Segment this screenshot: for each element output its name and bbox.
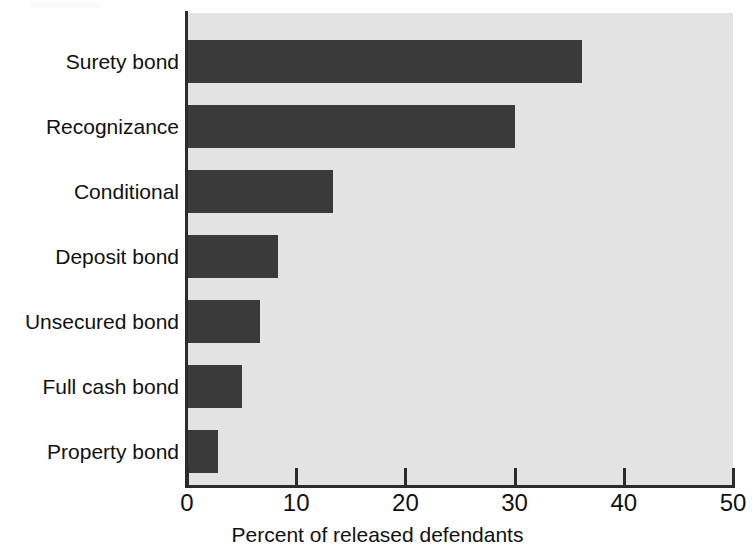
- bar-deposit-bond: [187, 235, 278, 278]
- category-label: Full cash bond: [0, 365, 179, 408]
- bar-row: [187, 235, 278, 278]
- x-tick-mark: [732, 468, 735, 485]
- category-label: Recognizance: [0, 105, 179, 148]
- bar-chart: Surety bond Recognizance Conditional Dep…: [0, 0, 755, 557]
- x-axis-title: Percent of released defendants: [0, 523, 755, 547]
- x-tick-mark: [623, 468, 626, 485]
- bar-unsecured-bond: [187, 300, 260, 343]
- category-axis-labels: Surety bond Recognizance Conditional Dep…: [0, 13, 179, 485]
- bar-row: [187, 105, 515, 148]
- bar-row: [187, 430, 218, 473]
- category-label: Deposit bond: [0, 235, 179, 278]
- x-axis-line: [185, 485, 735, 488]
- bar-row: [187, 170, 333, 213]
- bar-row: [187, 365, 242, 408]
- x-tick-label: 40: [610, 489, 637, 517]
- x-tick-mark: [295, 468, 298, 485]
- bar-conditional: [187, 170, 333, 213]
- bar-full-cash-bond: [187, 365, 242, 408]
- scan-artifact: [30, 2, 100, 8]
- bar-row: [187, 300, 260, 343]
- x-tick-label: 0: [180, 489, 193, 517]
- category-label: Property bond: [0, 430, 179, 473]
- bars-layer: [187, 13, 733, 485]
- bar-property-bond: [187, 430, 218, 473]
- bar-row: [187, 40, 582, 83]
- x-tick-label: 50: [720, 489, 747, 517]
- x-tick-mark: [514, 468, 517, 485]
- x-tick-label: 10: [283, 489, 310, 517]
- x-tick-mark: [404, 468, 407, 485]
- category-label: Surety bond: [0, 40, 179, 83]
- x-tick-mark: [186, 468, 189, 485]
- bar-surety-bond: [187, 40, 582, 83]
- bar-recognizance: [187, 105, 515, 148]
- x-tick-label: 20: [392, 489, 419, 517]
- category-label: Conditional: [0, 170, 179, 213]
- x-tick-label: 30: [501, 489, 528, 517]
- y-axis-line: [185, 11, 188, 488]
- category-label: Unsecured bond: [0, 300, 179, 343]
